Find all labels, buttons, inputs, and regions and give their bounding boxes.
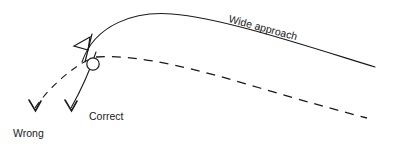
correct-label: Correct [89, 110, 124, 122]
ball-circle [87, 58, 99, 70]
wide-approach-label-group: Wide approach [227, 12, 298, 42]
correct-direction-arrowhead-icon [65, 100, 77, 111]
flag-triangle-icon [74, 37, 90, 50]
wrong-direction-arrowhead-icon [29, 100, 41, 111]
approach-dashed-curve [96, 57, 367, 118]
wrong-direction-arrow-shaft [35, 60, 88, 108]
wide-approach-label: Wide approach [227, 12, 298, 42]
wrong-label: Wrong [13, 127, 44, 139]
golf-approach-diagram: Wide approach Correct Wrong [0, 0, 394, 144]
diagram-canvas: Wide approach Correct Wrong [0, 0, 394, 144]
